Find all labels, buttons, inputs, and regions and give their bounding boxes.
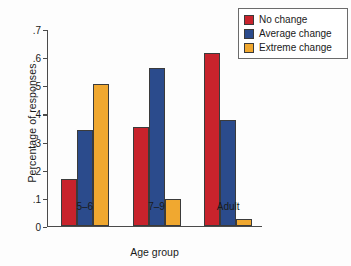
x-axis-tick-label: 7–9	[148, 201, 165, 212]
y-axis-tick-label: 0	[35, 222, 41, 233]
x-axis-title: Age group	[47, 246, 262, 258]
y-axis-tick-mark	[43, 143, 47, 144]
y-axis-tick-label: .6	[33, 53, 41, 64]
bar-chart-figure: Percentage of responses 0.1.2.3.4.5.6.7 …	[0, 0, 351, 266]
y-axis-tick-label: .3	[33, 137, 41, 148]
x-axis-tick-label: Adult	[217, 201, 240, 212]
bar	[61, 179, 77, 225]
bar	[236, 219, 252, 226]
x-axis-line	[47, 226, 262, 227]
y-axis-tick-mark	[43, 86, 47, 87]
bar	[93, 84, 109, 226]
legend-item-label: Extreme change	[259, 42, 332, 54]
y-axis-tick-mark	[43, 30, 47, 31]
y-axis-tick-label: .2	[33, 165, 41, 176]
bar	[133, 127, 149, 226]
chart-legend: No changeAverage changeExtreme change	[238, 8, 348, 59]
x-axis-tick-label: 5–6	[76, 201, 93, 212]
y-axis-tick-mark	[43, 171, 47, 172]
y-axis-tick-mark	[43, 58, 47, 59]
legend-item-label: No change	[259, 14, 307, 26]
y-axis-tick-label: .4	[33, 109, 41, 120]
plot-area: 0.1.2.3.4.5.6.7	[47, 30, 262, 227]
legend-swatch-icon	[244, 43, 254, 53]
bar	[165, 199, 181, 226]
y-axis-tick-label: .7	[33, 25, 41, 36]
y-axis-tick-mark	[43, 227, 47, 228]
legend-swatch-icon	[244, 15, 254, 25]
legend-item: Average change	[244, 27, 342, 40]
legend-item-label: Average change	[259, 28, 332, 40]
legend-item: Extreme change	[244, 41, 342, 54]
y-axis-tick-label: .5	[33, 81, 41, 92]
y-axis-tick-mark	[43, 114, 47, 115]
y-axis-tick-label: .1	[33, 193, 41, 204]
legend-item: No change	[244, 13, 342, 26]
y-axis-line	[47, 30, 48, 227]
legend-swatch-icon	[244, 29, 254, 39]
y-axis-tick-mark	[43, 199, 47, 200]
bar	[204, 53, 220, 226]
